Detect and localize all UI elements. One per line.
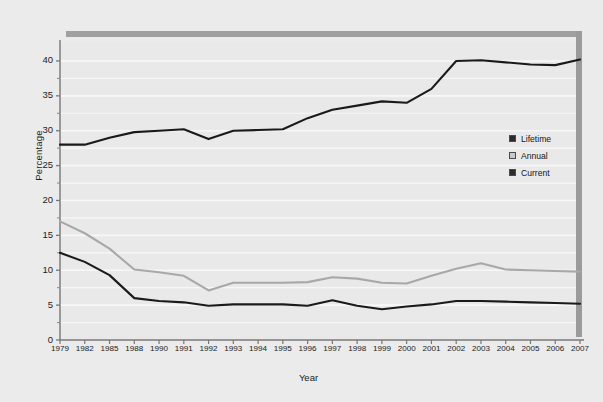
x-tick-label: 2007	[563, 344, 597, 353]
legend-label: Annual	[521, 151, 548, 161]
plot-area	[0, 0, 603, 402]
y-tick-label: 15	[27, 229, 53, 240]
y-tick-label: 25	[27, 159, 53, 170]
y-tick-label: 35	[27, 89, 53, 100]
y-tick-label: 20	[27, 194, 53, 205]
legend-item[interactable]: Lifetime	[509, 130, 551, 147]
legend-swatch-icon	[509, 135, 516, 142]
legend-swatch-icon	[509, 152, 516, 159]
legend-swatch-icon	[509, 169, 516, 176]
x-axis-label-text: Year	[285, 372, 318, 383]
chart-legend: LifetimeAnnualCurrent	[509, 130, 551, 181]
y-tick-label: 40	[27, 54, 53, 65]
x-axis-label: Year	[0, 372, 603, 383]
y-tick-label: 30	[27, 124, 53, 135]
legend-item[interactable]: Current	[509, 164, 551, 181]
legend-label: Current	[521, 168, 550, 178]
y-tick-label: 10	[27, 264, 53, 275]
legend-item[interactable]: Annual	[509, 147, 551, 164]
y-tick-label: 5	[27, 299, 53, 310]
y-tick-label: 0	[27, 334, 53, 345]
legend-label: Lifetime	[521, 134, 551, 144]
chart-figure: Percentage Year 0510152025303540 1979198…	[0, 0, 603, 402]
